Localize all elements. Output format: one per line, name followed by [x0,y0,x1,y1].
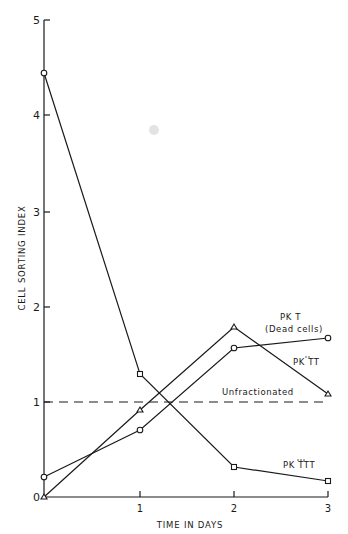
circle-marker [41,474,47,480]
triangle-marker [325,391,331,396]
y-tick-1: 1 [33,396,40,409]
label-pk-ttt: PK TTT [283,460,315,470]
x-tick-3: 3 [325,503,331,514]
circle-marker [231,345,237,351]
y-tick-labels: 5 4 3 2 1 0 [33,14,40,504]
circle-marker [325,335,331,341]
y-axis [44,20,50,497]
line-chart: 5 4 3 2 1 0 1 2 3 TIME IN DAYS CELL SORT… [0,0,348,534]
series-pk-tt-line [44,327,328,497]
y-tick-2: 2 [33,301,40,314]
series-pk-t-markers [41,70,331,480]
label-pk-t: PK T [280,312,301,322]
x-tick-2: 2 [231,503,237,514]
circle-marker [137,427,143,433]
y-tick-3: 3 [33,206,40,219]
label-pk-tt: PK TT [293,357,320,367]
series-pk-tt-markers [41,324,331,499]
square-marker [138,372,143,377]
y-tick-0: 0 [33,491,40,504]
series-pk-t-line [44,338,328,477]
smudge [149,125,159,135]
y-axis-title: CELL SORTING INDEX [17,205,27,310]
label-dead-cells: (Dead cells) [265,324,323,334]
circle-marker [41,70,47,76]
series-pk-ttt-line [44,73,328,481]
label-unfractionated: Unfractionated [222,387,294,397]
triangle-marker [231,324,237,329]
x-tick-labels: 1 2 3 [137,503,331,514]
y-tick-5: 5 [33,14,40,27]
y-tick-4: 4 [33,109,40,122]
square-marker [326,479,331,484]
x-axis [44,491,328,497]
numeral-dots [297,356,309,460]
square-marker [232,465,237,470]
x-axis-title: TIME IN DAYS [156,520,223,530]
x-tick-1: 1 [137,503,143,514]
